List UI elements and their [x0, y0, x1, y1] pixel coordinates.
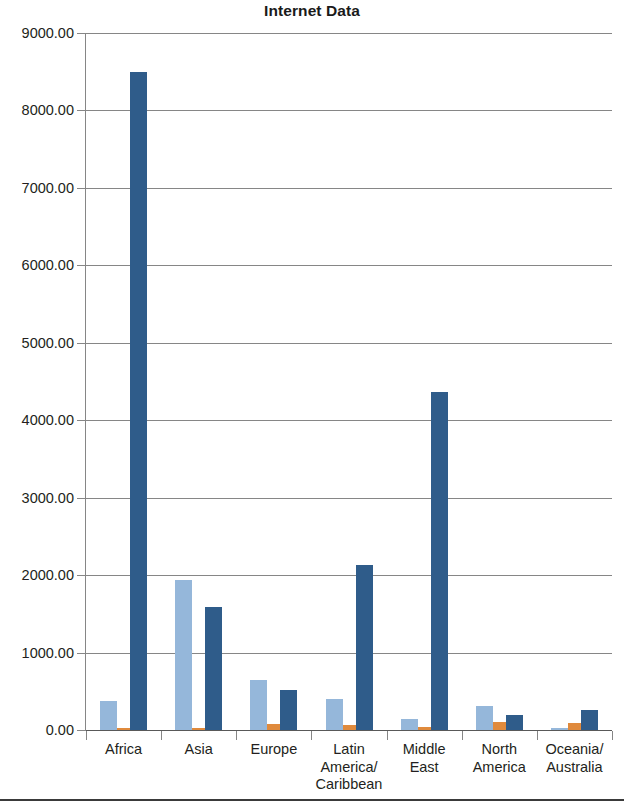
bar-series-1-3 — [326, 699, 343, 730]
y-axis-labels: 9000.008000.007000.006000.005000.004000.… — [0, 0, 74, 801]
y-axis-tick — [77, 265, 86, 266]
bar-series-3-6 — [581, 710, 598, 730]
y-axis-tick — [77, 575, 86, 576]
y-axis-tick — [77, 33, 86, 34]
bar-series-3-3 — [356, 565, 373, 730]
y-axis-tick-label: 1000.00 — [2, 646, 74, 660]
bar-group — [551, 33, 598, 730]
bar-series-3-1 — [205, 607, 222, 730]
y-axis-tick-label: 4000.00 — [2, 413, 74, 427]
y-axis-tick-label: 6000.00 — [2, 258, 74, 272]
bar-series-1-1 — [175, 580, 192, 730]
x-axis-tick — [86, 731, 87, 740]
x-axis-tick — [387, 731, 388, 740]
y-axis-tick-label: 2000.00 — [2, 568, 74, 582]
y-axis-tick — [77, 730, 86, 731]
plot-area — [86, 33, 612, 730]
x-axis-tick — [311, 731, 312, 740]
x-axis-category-label: Oceania/ Australia — [537, 741, 612, 776]
y-axis-tick — [77, 110, 86, 111]
x-axis-category-label: Africa — [86, 741, 161, 759]
bar-group — [100, 33, 147, 730]
y-axis-tick-label: 0.00 — [2, 723, 74, 737]
bar-group — [401, 33, 448, 730]
bar-series-2-6 — [568, 723, 581, 730]
bar-series-1-0 — [100, 701, 117, 730]
chart-title: Internet Data — [0, 0, 624, 22]
x-axis-tick — [612, 731, 613, 740]
bar-series-3-4 — [431, 392, 448, 730]
y-axis-tick-label: 5000.00 — [2, 336, 74, 350]
bar-series-1-5 — [476, 706, 493, 730]
x-axis-category-label: Middle East — [387, 741, 462, 776]
y-axis-tick — [77, 498, 86, 499]
y-axis-tick — [77, 343, 86, 344]
bar-group — [326, 33, 373, 730]
x-axis-tick — [537, 731, 538, 740]
y-axis-tick — [77, 420, 86, 421]
bar-series-3-0 — [130, 72, 147, 730]
x-axis-tick — [462, 731, 463, 740]
bar-series-1-4 — [401, 719, 418, 730]
chart-container: Internet Data 9000.008000.007000.006000.… — [0, 0, 624, 801]
x-axis-category-label: Europe — [236, 741, 311, 759]
y-axis-tick — [77, 188, 86, 189]
x-axis-line — [86, 730, 612, 731]
x-axis-category-label: Asia — [161, 741, 236, 759]
y-axis-tick-label: 8000.00 — [2, 103, 74, 117]
y-axis-tick-label: 9000.00 — [2, 26, 74, 40]
bar-series-3-5 — [506, 715, 523, 730]
bar-group — [250, 33, 297, 730]
bar-series-1-2 — [250, 680, 267, 730]
y-axis-tick-label: 7000.00 — [2, 181, 74, 195]
x-axis-category-label: Latin America/ Caribbean — [311, 741, 386, 794]
x-axis-category-label: North America — [462, 741, 537, 776]
bar-group — [476, 33, 523, 730]
bar-series-2-5 — [493, 722, 506, 730]
y-axis-tick-label: 3000.00 — [2, 491, 74, 505]
x-axis-tick — [161, 731, 162, 740]
y-axis-tick — [77, 653, 86, 654]
x-axis-tick — [236, 731, 237, 740]
bar-series-3-2 — [280, 690, 297, 730]
bar-group — [175, 33, 222, 730]
